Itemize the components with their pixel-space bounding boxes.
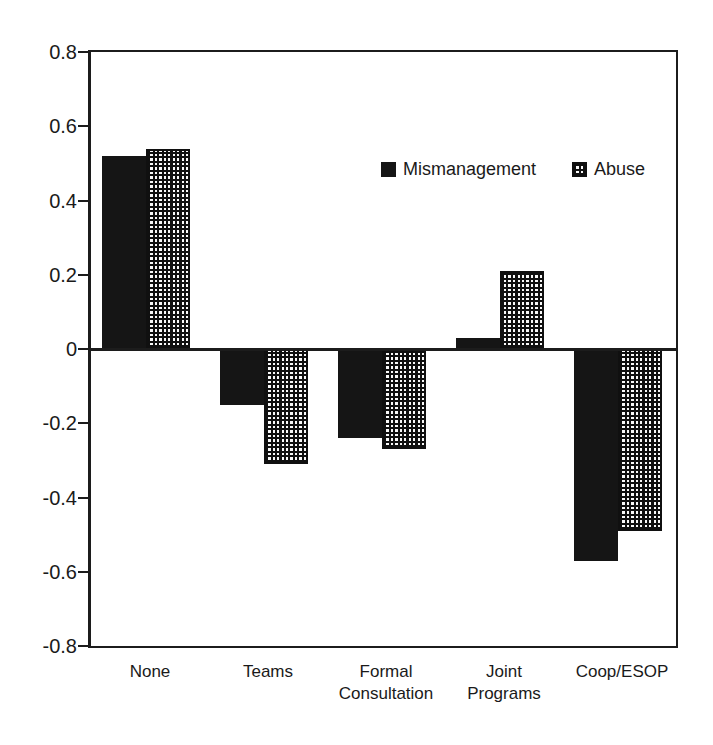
bar-formal-consultation-mismanagement (338, 349, 382, 438)
bar-teams-mismanagement (220, 349, 264, 405)
y-tick-label-0: 0 (11, 337, 77, 361)
y-tick-label-0-6: 0.6 (11, 114, 77, 138)
y-tick-label-0-4: 0.4 (11, 189, 77, 213)
y-tick-label-0-8: 0.8 (11, 40, 77, 64)
y-tick-mark-0-8 (78, 51, 88, 53)
y-tick-mark-0-6 (78, 571, 88, 573)
zero-axis-line (91, 348, 676, 351)
bar-joint-programs-abuse (500, 271, 544, 349)
y-tick-label-0-2: 0.2 (11, 263, 77, 287)
x-category-line: Programs (429, 683, 579, 705)
y-tick-label-0-4: -0.4 (11, 486, 77, 510)
y-tick-label-0-8: -0.8 (11, 634, 77, 658)
abuse-swatch-icon (572, 162, 587, 177)
y-tick-mark-0-6 (78, 125, 88, 127)
bar-coop-esop-abuse (618, 349, 662, 531)
legend-label-abuse: Abuse (594, 160, 645, 178)
mismanagement-swatch-icon (381, 162, 396, 177)
bar-none-mismanagement (102, 156, 146, 349)
y-tick-mark-0-4 (78, 200, 88, 202)
legend-item-abuse: Abuse (572, 160, 645, 178)
y-tick-mark-0-4 (78, 497, 88, 499)
legend-item-mismanagement: Mismanagement (381, 160, 536, 178)
legend-label-mismanagement: Mismanagement (403, 160, 536, 178)
y-tick-mark-0-8 (78, 645, 88, 647)
bar-teams-abuse (264, 349, 308, 464)
x-category-line: Coop/ESOP (547, 661, 697, 683)
y-tick-label-0-6: -0.6 (11, 560, 77, 584)
y-tick-mark-0-2 (78, 274, 88, 276)
y-tick-mark-0 (78, 348, 88, 350)
y-tick-label-0-2: -0.2 (11, 411, 77, 435)
x-category-label-coop-esop: Coop/ESOP (547, 661, 697, 683)
bar-none-abuse (146, 149, 190, 349)
legend: Mismanagement Abuse (381, 160, 645, 178)
bar-formal-consultation-abuse (382, 349, 426, 449)
bar-coop-esop-mismanagement (574, 349, 618, 561)
y-tick-mark-0-2 (78, 422, 88, 424)
plot-area: Mismanagement Abuse (88, 50, 678, 648)
